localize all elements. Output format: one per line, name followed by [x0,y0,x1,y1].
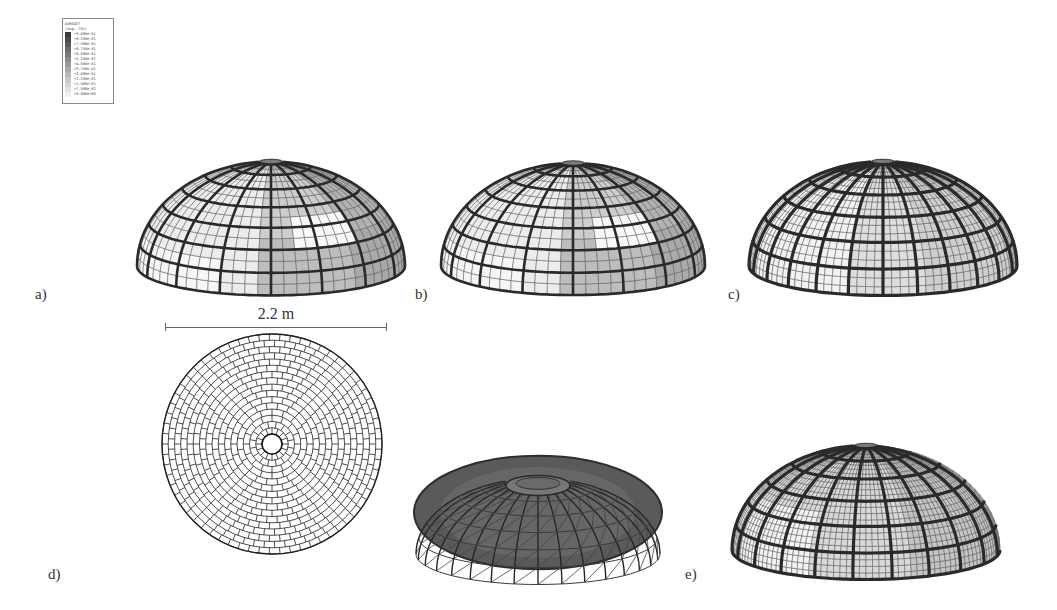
dome-panel-e [728,330,1004,564]
panel-label-a: a) [35,286,47,303]
damage-legend: DAMAGET (Avg: 75%) +9.000e-01+8.250e-01+… [62,18,114,104]
dome-panel-a [133,40,409,280]
panel-label-e: e) [685,566,697,583]
dimension-label: 2.2 m [165,305,387,323]
panel-label-c: c) [728,286,740,303]
dimension-line [165,327,387,328]
dome-deformed-solid-mesh [410,352,666,564]
legend-entry: +0.000e+00 [65,92,111,97]
panel-label-b: b) [415,286,428,303]
dome-panel-b [437,40,709,280]
legend-swatch [65,92,71,97]
dimension-tick-right [386,323,387,331]
dimension-tick-left [165,323,166,331]
dome-top-view-brick-pattern [160,332,384,556]
dome-panel-c [745,38,1021,280]
legend-rows: +9.000e-01+8.250e-01+7.500e-01+6.750e-01… [65,32,111,97]
panel-label-d: d) [48,566,61,583]
dimension-annotation: 2.2 m [165,305,387,335]
legend-value: +0.000e+00 [74,92,96,97]
